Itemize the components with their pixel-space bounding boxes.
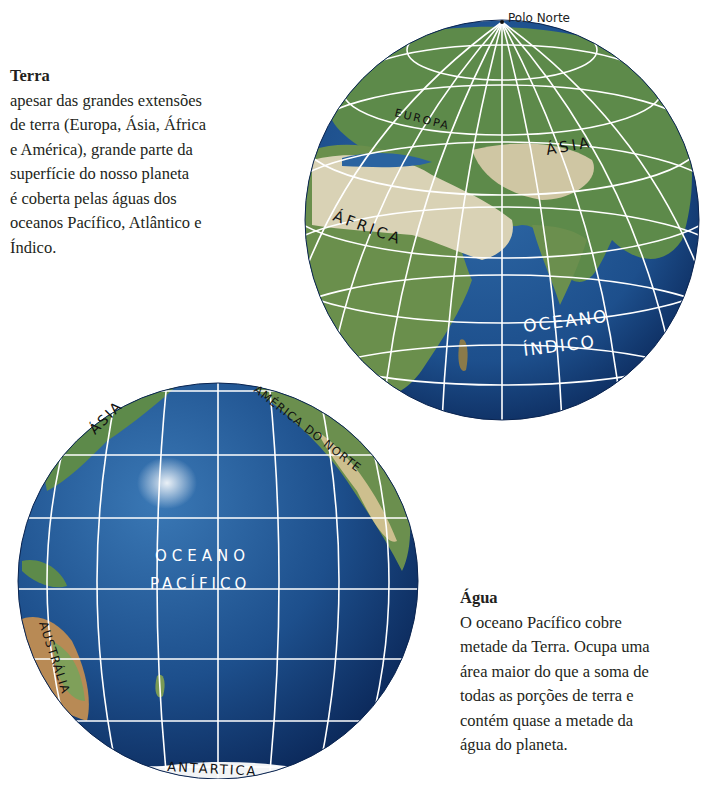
terra-line: apesar das grandes extensões — [10, 89, 240, 114]
terra-line: oceanos Pacífico, Atlântico e — [10, 211, 240, 236]
terra-title: Terra — [10, 64, 240, 89]
agua-line: área maior do que a soma de — [460, 660, 705, 685]
agua-line: todas as porções de terra e — [460, 684, 705, 709]
agua-line: O oceano Pacífico cobre — [460, 611, 705, 636]
terra-line: e América), grande parte da — [10, 138, 240, 163]
terra-line: é coberta pelas águas dos — [10, 187, 240, 212]
terra-caption: Terra apesar das grandes extensões de te… — [10, 64, 240, 260]
globe-eastern-hemisphere: Polo Norte EUROPA ÁSIA ÁFRICA OCEANO ÍND… — [302, 10, 702, 422]
north-pole-label: Polo Norte — [508, 11, 570, 25]
agua-title: Água — [460, 586, 705, 611]
label-ocean-pacifico-2: PACÍFICO — [150, 574, 250, 593]
terra-line: de terra (Europa, Ásia, África — [10, 113, 240, 138]
terra-line: Índico. — [10, 236, 240, 261]
north-pole-marker — [500, 20, 504, 24]
terra-line: superfície do nosso planeta — [10, 162, 240, 187]
agua-line: água do planeta. — [460, 733, 705, 758]
agua-caption: Água O oceano Pacífico cobre metade da T… — [460, 586, 705, 758]
agua-line: metade da Terra. Ocupa uma — [460, 635, 705, 660]
agua-line: contém quase a metade da — [460, 709, 705, 734]
globe-pacific-hemisphere: ÁSIA AMÉRICA DO NORTE OCEANO PACÍFICO AU… — [17, 371, 419, 779]
sun-glare — [137, 457, 197, 509]
label-ocean-pacifico-1: OCEANO — [155, 547, 250, 565]
